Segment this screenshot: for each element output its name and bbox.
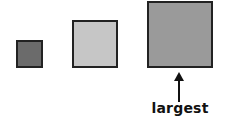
medium-square: [72, 20, 118, 68]
large-square: [147, 1, 213, 68]
largest-label: largest: [150, 100, 210, 116]
arrow-up-icon: [172, 72, 186, 102]
small-square: [16, 40, 43, 68]
